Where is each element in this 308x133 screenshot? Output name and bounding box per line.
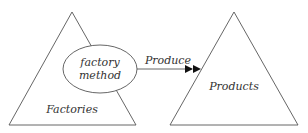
factory-method-label-line2: method xyxy=(79,69,121,82)
factory-method-diagram: Factories factory method Produce Product… xyxy=(0,0,308,133)
factory-method-label-line1: factory xyxy=(79,56,120,69)
produce-edge: Produce xyxy=(137,54,201,73)
factory-method-node: factory method xyxy=(63,45,137,93)
produce-label: Produce xyxy=(144,54,192,67)
products-label: Products xyxy=(208,80,259,93)
factories-label: Factories xyxy=(45,103,98,116)
